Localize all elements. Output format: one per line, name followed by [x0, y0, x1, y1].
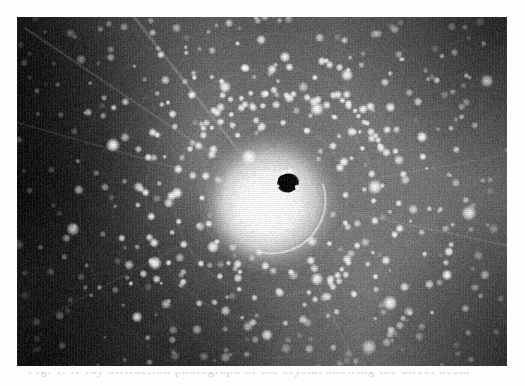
figure-caption-text: Fig. 1. X-ray diffraction photograph of … — [28, 372, 508, 378]
figure-caption-strip: Fig. 1. X-ray diffraction photograph of … — [0, 372, 525, 386]
figure-page: Fig. 1. X-ray diffraction photograph of … — [0, 0, 525, 386]
diffraction-plate — [17, 17, 507, 366]
diffraction-pattern-image — [17, 17, 507, 366]
